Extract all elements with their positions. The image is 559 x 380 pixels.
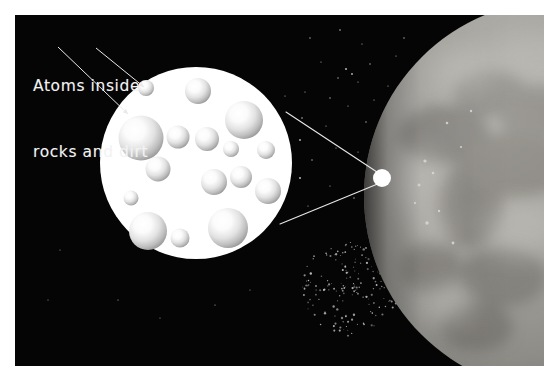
star	[333, 288, 335, 290]
star	[367, 258, 369, 260]
star	[354, 284, 355, 285]
star	[335, 259, 336, 260]
star	[336, 290, 337, 291]
star	[368, 299, 369, 300]
star	[339, 326, 341, 328]
star	[367, 268, 369, 270]
star	[372, 271, 374, 273]
star	[313, 258, 314, 259]
star	[318, 299, 319, 300]
star	[356, 288, 357, 289]
star	[353, 283, 354, 284]
star	[395, 55, 396, 56]
star	[385, 306, 386, 307]
star	[214, 304, 215, 305]
star	[320, 61, 321, 62]
star	[305, 284, 307, 286]
star	[354, 249, 355, 250]
star	[250, 290, 251, 291]
atom-sphere	[201, 169, 227, 195]
star	[337, 77, 338, 78]
atom-sphere	[119, 116, 164, 161]
star	[371, 312, 373, 314]
star	[363, 323, 365, 325]
star	[310, 272, 312, 274]
star	[313, 255, 315, 257]
star	[365, 121, 366, 122]
star	[383, 298, 384, 299]
star	[380, 281, 381, 282]
star	[343, 285, 345, 287]
star	[350, 242, 351, 243]
star	[347, 321, 349, 323]
star	[349, 276, 351, 278]
star	[301, 117, 303, 119]
star	[373, 302, 375, 304]
star	[355, 245, 356, 246]
star	[323, 289, 325, 291]
star	[387, 85, 388, 86]
star	[353, 197, 354, 198]
star	[365, 296, 367, 298]
star	[337, 251, 339, 253]
star	[308, 284, 310, 286]
star	[304, 274, 306, 276]
star	[342, 252, 343, 253]
star	[326, 254, 327, 255]
star	[358, 273, 359, 274]
star	[329, 255, 331, 257]
star	[334, 315, 336, 317]
star	[329, 97, 330, 98]
star	[347, 105, 348, 106]
star	[342, 269, 344, 271]
star	[365, 257, 366, 258]
star	[306, 280, 307, 281]
star	[307, 302, 309, 304]
star	[344, 287, 345, 288]
star	[328, 283, 330, 285]
atom-sphere	[195, 127, 219, 151]
star	[357, 324, 358, 325]
star	[351, 319, 353, 321]
star	[361, 43, 362, 44]
star	[365, 247, 367, 249]
star	[333, 325, 335, 327]
star	[308, 280, 310, 282]
star	[366, 262, 368, 264]
star	[403, 37, 404, 38]
atom-sphere	[230, 166, 252, 188]
atom-sphere	[124, 191, 139, 206]
star	[379, 307, 380, 308]
star	[345, 245, 347, 247]
star	[356, 287, 358, 289]
star	[345, 315, 346, 316]
star	[331, 248, 332, 249]
star	[351, 73, 353, 75]
star	[331, 283, 332, 284]
star	[370, 311, 371, 312]
star	[389, 300, 390, 301]
atom-sphere	[167, 126, 190, 149]
star	[310, 282, 311, 283]
star	[333, 330, 335, 332]
star	[299, 139, 301, 141]
illustration-panel: Atoms inside rocks and dirt	[15, 15, 544, 366]
star	[360, 282, 362, 284]
star	[357, 151, 358, 152]
star	[358, 287, 359, 288]
star	[309, 37, 310, 38]
star	[309, 299, 311, 301]
star	[48, 300, 49, 301]
star	[307, 205, 308, 206]
star	[342, 300, 343, 301]
star	[375, 315, 376, 316]
star	[339, 29, 341, 31]
star	[329, 185, 330, 186]
star	[311, 159, 312, 160]
star	[354, 261, 356, 263]
star	[373, 99, 374, 100]
star	[337, 300, 338, 301]
star	[351, 333, 352, 334]
star	[355, 259, 356, 260]
star	[335, 147, 336, 148]
